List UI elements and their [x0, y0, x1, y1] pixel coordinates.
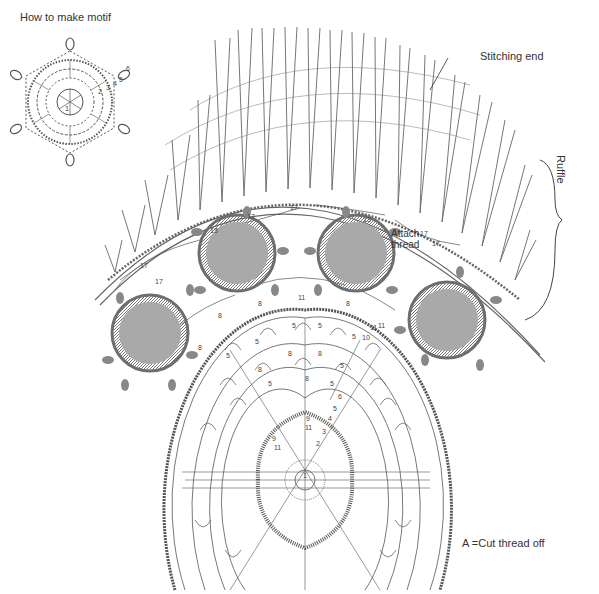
doily-row-number: 4	[328, 415, 332, 422]
chain-count: 17	[155, 278, 163, 285]
row-count: 5	[330, 380, 334, 387]
chain-count: 11	[370, 324, 377, 331]
row-count: 8	[258, 366, 262, 373]
row-count: 11	[274, 444, 281, 451]
row-count: 8	[288, 350, 292, 357]
motif-row-number: 4	[113, 80, 117, 87]
motif-2	[191, 206, 289, 296]
attach-thread-label: Attach thread	[391, 228, 419, 250]
chain-count: 8	[218, 312, 222, 319]
chain-count: 8	[198, 344, 202, 351]
chain-count: 11	[298, 294, 305, 301]
motif-diagram-title: How to make motif	[20, 11, 111, 23]
doily	[164, 309, 452, 590]
legend-cut-thread: A =Cut thread off	[462, 537, 545, 549]
row-count: 5	[226, 352, 230, 359]
row-count: 8	[318, 350, 322, 357]
motif-diagram	[9, 38, 131, 166]
crochet-diagram: How to make motif Stitching end Ruffle A…	[0, 0, 599, 594]
attach-thread-line2: thread	[391, 239, 419, 250]
row-count: 5	[292, 322, 296, 329]
row-count: 9	[306, 415, 310, 422]
doily-row-number: 1	[303, 472, 307, 479]
chain-count: 8	[346, 300, 350, 307]
chain-count: 8	[258, 300, 262, 307]
doily-row-number: 3	[322, 428, 326, 435]
doily-row-number: 5	[333, 405, 337, 412]
chain-count: 13	[363, 216, 371, 223]
doily-row-number: 11	[378, 322, 385, 329]
row-count: 5	[352, 333, 356, 340]
chain-count: 17	[432, 240, 440, 247]
stitching-end-label: Stitching end	[480, 50, 544, 62]
attach-thread-line1: Attach	[391, 228, 419, 239]
row-count: 5	[318, 322, 322, 329]
ruffle-label: Ruffle	[555, 155, 567, 184]
row-count: 8	[305, 375, 309, 382]
motif-row-number: 3	[106, 84, 110, 91]
motif-row-number: 5	[119, 76, 123, 83]
motif-3	[304, 206, 401, 296]
chain-count: 17	[290, 204, 298, 211]
row-count: 5	[268, 380, 272, 387]
doily-row-number: 6	[338, 393, 342, 400]
motif-row-number: 1	[65, 105, 69, 112]
doily-row-number: 2	[316, 440, 320, 447]
chain-count: 13	[210, 227, 218, 234]
chain-count: 17	[247, 213, 255, 220]
row-count: 9	[272, 435, 276, 442]
row-count: 5	[340, 362, 344, 369]
row-count: 11	[305, 424, 312, 431]
chain-count: 17	[140, 262, 148, 269]
row-count: 5	[255, 338, 259, 345]
motif-row-number: 6	[126, 65, 130, 72]
chain-count: 17	[420, 230, 428, 237]
doily-row-number: 10	[362, 334, 370, 341]
motif-4	[394, 266, 502, 371]
motif-1	[102, 284, 198, 391]
motif-row-number: 2	[98, 88, 102, 95]
